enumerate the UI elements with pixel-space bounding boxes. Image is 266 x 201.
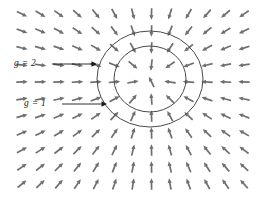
- field-arrow: [35, 63, 47, 67]
- field-arrow: [184, 112, 193, 121]
- field-arrow: [130, 128, 135, 139]
- field-arrow: [220, 45, 231, 50]
- field-arrow: [110, 44, 119, 52]
- field-arrow: [202, 45, 213, 51]
- field-arrow: [53, 45, 64, 50]
- field-arrow: [72, 113, 83, 119]
- field-arrow: [130, 111, 136, 122]
- field-arrow: [112, 179, 117, 190]
- field-arrow: [91, 113, 101, 120]
- field-arrow: [168, 8, 173, 19]
- field-arrow: [131, 161, 135, 172]
- field-arrow: [149, 93, 153, 105]
- field-arrow: [73, 10, 82, 18]
- field-arrow: [54, 130, 64, 137]
- arrow-grid: [16, 8, 250, 190]
- field-arrow: [72, 97, 83, 102]
- field-arrow: [16, 11, 27, 17]
- field-arrow: [222, 179, 229, 189]
- field-arrow: [35, 163, 44, 171]
- field-arrow: [239, 130, 249, 136]
- field-arrow: [35, 147, 45, 154]
- field-arrow: [90, 97, 101, 102]
- field-arrow: [111, 145, 117, 156]
- field-arrow: [221, 130, 231, 137]
- field-arrow: [149, 8, 153, 20]
- field-arrow: [239, 114, 250, 119]
- field-arrow: [186, 145, 192, 156]
- field-arrow: [239, 45, 250, 50]
- field-arrow: [239, 10, 249, 17]
- field-arrow: [149, 77, 155, 88]
- field-arrow: [183, 96, 194, 102]
- field-arrow: [149, 42, 153, 54]
- field-arrow: [109, 96, 119, 102]
- field-arrow: [72, 130, 82, 138]
- field-arrow: [54, 146, 64, 154]
- field-arrow: [91, 27, 100, 35]
- field-arrow: [168, 178, 172, 189]
- field-arrow: [129, 95, 137, 104]
- field-arrow: [72, 80, 84, 84]
- field-arrow: [36, 180, 45, 189]
- field-arrow: [201, 63, 212, 68]
- field-arrow: [111, 128, 118, 138]
- field-arrow: [127, 80, 138, 84]
- field-arrow: [183, 62, 194, 67]
- field-arrow: [221, 27, 231, 34]
- figure-container: g = 2 g = 1: [0, 0, 266, 201]
- field-arrow: [220, 113, 231, 119]
- field-arrow: [35, 10, 45, 17]
- field-arrow: [240, 163, 249, 171]
- field-arrow: [203, 146, 211, 155]
- field-arrow: [93, 179, 99, 190]
- field-arrow: [72, 45, 83, 50]
- field-arrow: [53, 97, 64, 101]
- field-arrow: [16, 114, 27, 119]
- field-arrow: [183, 80, 195, 84]
- field-arrow: [222, 163, 230, 172]
- field-arrow: [128, 61, 137, 69]
- field-arrow: [54, 10, 64, 17]
- field-arrow: [165, 61, 175, 68]
- field-arrow: [131, 178, 135, 189]
- field-arrow: [16, 28, 27, 33]
- field-arrow: [92, 9, 100, 18]
- field-arrow: [131, 8, 136, 19]
- field-arrow: [204, 179, 210, 190]
- field-arrow: [185, 26, 193, 36]
- field-arrow: [202, 113, 212, 120]
- field-arrow: [91, 129, 100, 138]
- field-arrow: [35, 28, 46, 33]
- field-arrow: [111, 9, 117, 20]
- field-arrow: [72, 27, 82, 34]
- field-arrow: [53, 114, 64, 119]
- field-arrow: [17, 180, 26, 188]
- field-arrow: [35, 114, 46, 119]
- field-arrow: [73, 163, 81, 172]
- field-arrow: [149, 161, 153, 173]
- field-arrow: [17, 147, 27, 153]
- field-arrow: [239, 28, 250, 34]
- field-arrow: [203, 9, 211, 18]
- field-arrow: [186, 162, 191, 173]
- label-g-2: g = 2: [14, 58, 36, 68]
- leader-arrowhead-g2: [92, 61, 98, 67]
- field-arrow: [204, 162, 211, 172]
- field-arrow: [238, 97, 249, 101]
- field-arrow: [202, 97, 213, 102]
- field-arrow: [131, 144, 135, 155]
- field-arrow: [186, 179, 191, 190]
- field-arrow: [55, 180, 63, 189]
- field-arrow: [166, 95, 175, 104]
- field-arrow: [240, 180, 248, 189]
- field-arrow: [16, 131, 27, 136]
- field-arrow: [220, 97, 231, 102]
- field-arrow: [91, 44, 101, 50]
- field-arrow: [73, 146, 82, 155]
- field-arrow: [203, 129, 212, 138]
- field-arrow: [238, 63, 249, 67]
- label-g-1: g = 1: [24, 98, 46, 108]
- field-arrow: [92, 162, 99, 172]
- field-arrow: [168, 144, 173, 155]
